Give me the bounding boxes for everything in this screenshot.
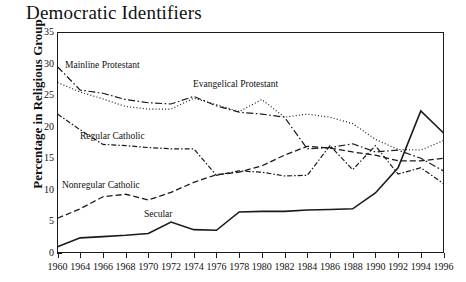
x-axis-tick-label: 1968: [116, 261, 136, 272]
y-axis-tick-labels: 05101520253035: [28, 32, 54, 253]
x-axis-tick-marks: [57, 253, 444, 259]
x-axis-tick-mark: [239, 253, 240, 258]
y-axis-tick-label: 15: [44, 153, 54, 163]
x-axis-tick-label: 1974: [184, 261, 204, 272]
x-axis-tick-mark: [375, 253, 376, 258]
y-axis-tick-label: 25: [44, 90, 54, 100]
x-axis-tick-label: 1978: [229, 261, 249, 272]
x-axis-tick-mark: [194, 253, 195, 258]
x-axis-tick-mark: [398, 253, 399, 258]
x-axis-tick-mark: [80, 253, 81, 258]
x-axis-tick-label: 1970: [138, 261, 158, 272]
y-axis-tick-label: 0: [49, 248, 54, 258]
x-axis-tick-mark: [285, 253, 286, 258]
x-axis-tick-label: 1990: [365, 261, 385, 272]
x-axis-tick-label: 1972: [161, 261, 181, 272]
x-axis-tick-mark: [216, 253, 217, 258]
x-axis-tick-mark: [148, 253, 149, 258]
x-axis-tick-label: 1982: [275, 261, 295, 272]
y-axis-tick-label: 10: [44, 185, 54, 195]
x-axis-tick-mark: [330, 253, 331, 258]
y-axis-tick-label: 20: [44, 122, 54, 132]
page-title: Democratic Identifiers: [26, 2, 202, 24]
x-axis-tick-mark: [307, 253, 308, 258]
y-axis-tick-label: 30: [44, 59, 54, 69]
x-axis-tick-mark: [171, 253, 172, 258]
x-axis-tick-label: 1988: [343, 261, 363, 272]
x-axis-tick-label: 1966: [93, 261, 113, 272]
x-axis-tick-mark: [58, 253, 59, 258]
x-axis-tick-mark: [126, 253, 127, 258]
series-line-regular-catholic: [58, 114, 444, 183]
x-axis-tick-label: 1986: [320, 261, 340, 272]
x-axis-tick-label: 1976: [206, 261, 226, 272]
x-axis-tick-mark: [353, 253, 354, 258]
series-label-evangelical-protestant: Evangelical Protestant: [193, 79, 278, 89]
x-axis-tick-mark: [103, 253, 104, 258]
x-axis-tick-mark: [262, 253, 263, 258]
x-axis-tick-label: 1980: [252, 261, 272, 272]
series-label-mainline-protestant: Mainline Protestant: [65, 60, 140, 70]
x-axis-tick-mark: [421, 253, 422, 258]
x-axis-tick-label: 1994: [411, 261, 431, 272]
y-axis-tick-label: 5: [49, 216, 54, 226]
x-axis-tick-mark: [444, 253, 445, 258]
x-axis-tick-label: 1960: [48, 261, 68, 272]
x-axis-tick-label: 1992: [388, 261, 408, 272]
x-axis-tick-labels: 1960196419661968197019721974197619781980…: [57, 261, 444, 277]
x-axis-tick-label: 1996: [434, 261, 454, 272]
series-label-nonregular-catholic: Nonregular Catholic: [62, 180, 140, 190]
x-axis-tick-label: 1964: [70, 261, 90, 272]
x-axis-tick-label: 1984: [297, 261, 317, 272]
series-label-regular-catholic: Regular Catholic: [80, 131, 145, 141]
series-label-secular: Secular: [144, 209, 173, 219]
chart-page: Democratic Identifiers Percentage in Rel…: [0, 0, 466, 282]
y-axis-tick-label: 35: [44, 27, 54, 37]
